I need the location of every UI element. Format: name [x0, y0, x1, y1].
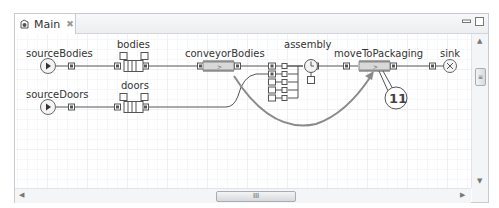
vertical-scroll-thumb[interactable]: ≡: [475, 68, 486, 86]
editor-panel: Main ✖: [14, 13, 489, 203]
conveyor-bodies-icon: >: [203, 61, 234, 71]
label-sink: sink: [440, 48, 460, 59]
conveyor-move-icon: >: [359, 61, 390, 71]
svg-text:>: >: [373, 63, 378, 70]
model-icon: [19, 19, 30, 30]
scroll-left-icon[interactable]: ◀: [19, 191, 24, 199]
horizontal-scrollbar[interactable]: ◀ III ▶: [15, 188, 471, 203]
source-bodies-icon: [41, 59, 56, 74]
label-assembly: assembly: [284, 39, 332, 50]
minimize-icon[interactable]: [462, 17, 471, 26]
horizontal-scroll-thumb[interactable]: III: [216, 191, 296, 202]
label-conveyor-bodies: conveyorBodies: [185, 48, 265, 59]
maximize-icon[interactable]: [475, 17, 484, 26]
scroll-right-icon[interactable]: ▶: [460, 191, 465, 199]
label-source-doors: sourceDoors: [26, 89, 88, 100]
sink-icon: [444, 60, 457, 73]
label-doors: doors: [121, 80, 149, 91]
close-icon[interactable]: ✖: [66, 19, 74, 29]
label-source-bodies: sourceBodies: [26, 48, 93, 59]
source-doors-icon: [41, 100, 56, 115]
scroll-up-icon[interactable]: ▲: [477, 37, 482, 45]
scroll-corner: [472, 188, 488, 202]
scroll-down-icon[interactable]: ▼: [477, 177, 482, 185]
svg-text:>: >: [217, 63, 222, 70]
label-bodies: bodies: [117, 39, 150, 50]
vertical-scrollbar[interactable]: ▲ ≡ ▼: [471, 34, 488, 188]
tab-main[interactable]: Main ✖: [15, 14, 76, 34]
callout-number: 11: [389, 91, 407, 106]
label-move-to-packaging: moveToPackaging: [334, 48, 423, 59]
tab-label: Main: [34, 18, 60, 31]
diagram-canvas[interactable]: > >: [16, 34, 471, 188]
tab-bar: Main ✖: [15, 14, 488, 34]
